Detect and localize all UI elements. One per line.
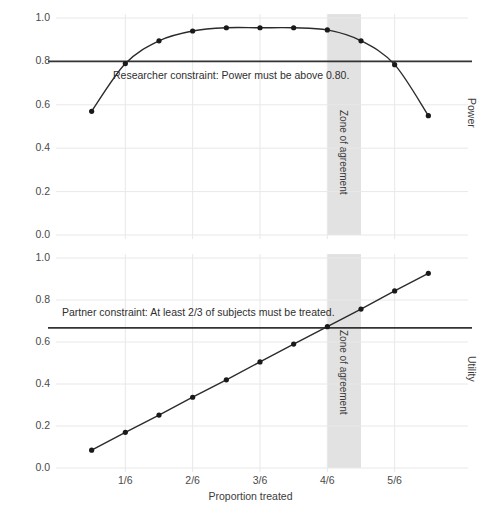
utility-ytick-0.2: 0.2 [20, 419, 50, 431]
utility-data-point [291, 342, 296, 347]
power-data-point [392, 62, 397, 67]
power-ytick-1.0: 1.0 [20, 11, 50, 23]
power-data-point [89, 109, 94, 114]
power-data-point [224, 25, 229, 30]
power-constraint-annotation: Researcher constraint: Power must be abo… [113, 69, 349, 81]
power-data-point [325, 27, 330, 32]
utility-ytick-0.4: 0.4 [20, 377, 50, 389]
xtick-4-6: 4/6 [307, 474, 347, 486]
utility-data-point [190, 395, 195, 400]
utility-data-point [123, 430, 128, 435]
utility-ytick-0.6: 0.6 [20, 335, 50, 347]
utility-data-point [89, 448, 94, 453]
utility-data-point [257, 359, 262, 364]
power-data-point [358, 38, 363, 43]
utility-ytick-0.0: 0.0 [20, 461, 50, 473]
x-axis-title: Proportion treated [0, 490, 501, 502]
power-ytick-0.0: 0.0 [20, 228, 50, 240]
power-ytick-0.4: 0.4 [20, 141, 50, 153]
power-data-point [156, 38, 161, 43]
utility-ytick-1.0: 1.0 [20, 251, 50, 263]
xtick-1-6: 1/6 [105, 474, 145, 486]
power-zone-of-agreement-label: Zone of agreement [338, 110, 349, 195]
utility-data-point [426, 271, 431, 276]
power-ytick-0.6: 0.6 [20, 98, 50, 110]
utility-data-point [358, 306, 363, 311]
utility-ytick-0.8: 0.8 [20, 293, 50, 305]
power-axis-title: Power [466, 98, 478, 128]
power-data-point [123, 61, 128, 66]
power-ytick-0.2: 0.2 [20, 185, 50, 197]
utility-zone-of-agreement-label: Zone of agreement [338, 330, 349, 415]
utility-constraint-annotation: Partner constraint: At least 2/3 of subj… [62, 306, 335, 318]
power-data-point [291, 25, 296, 30]
utility-axis-title: Utility [466, 356, 478, 382]
power-data-point [257, 25, 262, 30]
xtick-2-6: 2/6 [173, 474, 213, 486]
utility-data-point [156, 412, 161, 417]
utility-data-point [325, 324, 330, 329]
utility-data-point [392, 288, 397, 293]
utility-data-point [224, 377, 229, 382]
xtick-3-6: 3/6 [240, 474, 280, 486]
xtick-5-6: 5/6 [375, 474, 415, 486]
power-data-point [190, 28, 195, 33]
chart-figure: 1.0 0.8 0.6 0.4 0.2 0.0 1.0 0.8 0.6 0.4 … [0, 0, 501, 519]
power-data-point [426, 113, 431, 118]
power-ytick-0.8: 0.8 [20, 54, 50, 66]
